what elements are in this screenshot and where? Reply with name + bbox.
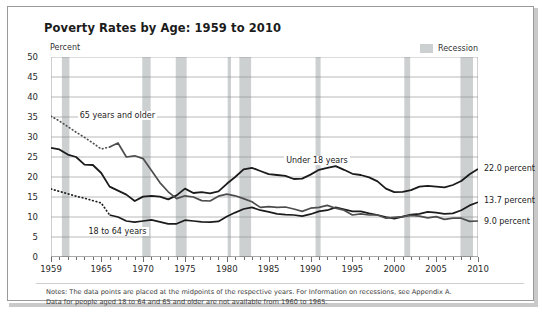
series-line-dotted xyxy=(51,189,110,215)
x-tick-mark xyxy=(311,257,312,262)
x-tick-mark xyxy=(118,257,119,260)
notes-divider xyxy=(36,283,524,284)
x-tick-mark xyxy=(177,257,178,260)
y-tick-label: 35 xyxy=(16,112,38,122)
x-tick-mark xyxy=(470,257,471,260)
legend-label-recession: Recession xyxy=(438,44,478,53)
x-tick-mark xyxy=(302,257,303,260)
x-tick-mark xyxy=(143,257,144,262)
x-tick-mark xyxy=(227,257,228,262)
x-tick-mark xyxy=(101,257,102,262)
x-tick-mark xyxy=(168,257,169,260)
x-tick-mark xyxy=(336,257,337,260)
x-tick-mark xyxy=(478,257,479,262)
x-tick-mark xyxy=(185,257,186,262)
x-tick-mark xyxy=(378,257,379,260)
x-tick-mark xyxy=(403,257,404,260)
series-annotation-65-and-older: 65 years and older xyxy=(78,111,157,120)
x-tick-mark xyxy=(369,257,370,260)
x-tick-mark xyxy=(327,257,328,260)
x-tick-mark xyxy=(76,257,77,260)
chart-notes: Notes: The data points are placed at the… xyxy=(46,288,516,307)
x-tick-mark xyxy=(461,257,462,260)
legend: Recession xyxy=(420,44,478,53)
x-tick-mark xyxy=(244,257,245,260)
x-tick-mark xyxy=(436,257,437,262)
x-tick-label: 1975 xyxy=(165,264,205,274)
x-tick-mark xyxy=(252,257,253,260)
series-annotation-under-18: Under 18 years xyxy=(284,156,350,165)
x-tick-mark xyxy=(419,257,420,260)
note-line-1: Notes: The data points are placed at the… xyxy=(46,288,516,298)
x-tick-mark xyxy=(319,257,320,260)
x-tick-mark xyxy=(126,257,127,260)
y-tick-label: 25 xyxy=(16,152,38,162)
y-axis-label: Percent xyxy=(50,43,80,52)
x-tick-label: 1970 xyxy=(123,264,163,274)
x-tick-label: 1985 xyxy=(249,264,289,274)
x-tick-mark xyxy=(135,257,136,260)
x-tick-mark xyxy=(394,257,395,262)
x-tick-mark xyxy=(151,257,152,260)
series-line xyxy=(51,148,478,201)
x-tick-mark xyxy=(453,257,454,260)
x-tick-mark xyxy=(59,257,60,260)
x-tick-mark xyxy=(411,257,412,260)
x-tick-label: 2000 xyxy=(374,264,414,274)
x-tick-label: 1990 xyxy=(291,264,331,274)
x-tick-label: 1980 xyxy=(207,264,247,274)
x-tick-mark xyxy=(386,257,387,260)
x-tick-mark xyxy=(344,257,345,260)
y-tick-label: 5 xyxy=(16,232,38,242)
x-tick-mark xyxy=(202,257,203,260)
end-label-under-18: 22.0 percent xyxy=(484,164,535,173)
x-tick-label: 1959 xyxy=(31,264,71,274)
series-line xyxy=(110,202,478,224)
x-tick-mark xyxy=(210,257,211,260)
x-tick-mark xyxy=(277,257,278,260)
x-tick-label: 1965 xyxy=(81,264,121,274)
x-tick-mark xyxy=(193,257,194,260)
x-tick-mark xyxy=(51,257,52,262)
x-tick-mark xyxy=(269,257,270,262)
y-tick-label: 10 xyxy=(16,212,38,222)
x-tick-mark xyxy=(93,257,94,260)
series-line-dotted xyxy=(51,116,110,149)
x-tick-label: 1995 xyxy=(332,264,372,274)
x-tick-mark xyxy=(361,257,362,260)
series-line xyxy=(110,143,478,221)
x-tick-mark xyxy=(110,257,111,260)
page-title: Poverty Rates by Age: 1959 to 2010 xyxy=(44,21,281,35)
x-tick-mark xyxy=(285,257,286,260)
y-tick-label: 40 xyxy=(16,92,38,102)
x-tick-mark xyxy=(160,257,161,260)
chart-card: Poverty Rates by Age: 1959 to 2010 Perce… xyxy=(7,6,534,301)
x-tick-mark xyxy=(294,257,295,260)
x-tick-mark xyxy=(218,257,219,260)
x-tick-mark xyxy=(260,257,261,260)
x-tick-mark xyxy=(84,257,85,260)
y-tick-label: 45 xyxy=(16,72,38,82)
y-tick-label: 20 xyxy=(16,172,38,182)
x-tick-label: 2010 xyxy=(458,264,498,274)
y-tick-label: 50 xyxy=(16,52,38,62)
series-annotation-18-to-64: 18 to 64 years xyxy=(86,227,148,236)
y-tick-label: 0 xyxy=(16,252,38,262)
x-tick-mark xyxy=(428,257,429,260)
end-label-65-and-older: 9.0 percent xyxy=(484,217,530,226)
y-tick-label: 15 xyxy=(16,192,38,202)
y-tick-label: 30 xyxy=(16,132,38,142)
end-label-18-to-64: 13.7 percent xyxy=(484,196,535,205)
x-tick-mark xyxy=(68,257,69,260)
x-tick-mark xyxy=(352,257,353,262)
recession-swatch xyxy=(420,44,433,53)
note-line-2: Data for people aged 18 to 64 and 65 and… xyxy=(46,298,516,308)
x-tick-mark xyxy=(445,257,446,260)
window-shadow-right xyxy=(534,8,538,307)
x-tick-label: 2005 xyxy=(416,264,456,274)
x-tick-mark xyxy=(235,257,236,260)
